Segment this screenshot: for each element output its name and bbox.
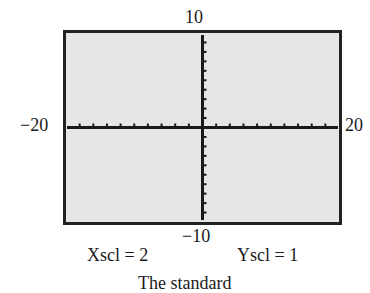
xmin-label: −20 [20, 116, 48, 134]
yscl-label: Yscl = 1 [237, 246, 298, 264]
xscl-label: Xscl = 2 [87, 246, 148, 264]
xmax-label: 20 [345, 116, 363, 134]
figure-caption: The standard [138, 274, 231, 292]
ymin-label: −10 [182, 227, 210, 245]
ymax-label: 10 [185, 8, 203, 26]
